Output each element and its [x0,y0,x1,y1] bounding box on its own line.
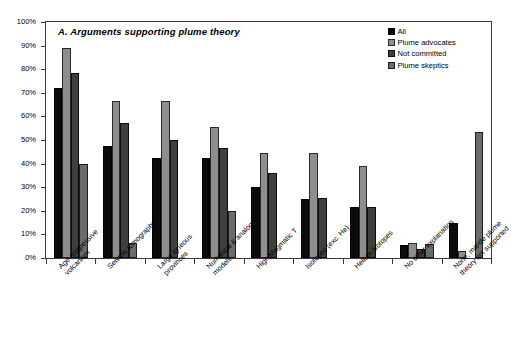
legend-item[interactable]: Plume advocates [388,38,456,47]
y-tick-label: 80% [21,65,36,73]
bar [161,101,170,258]
bar [359,166,368,258]
bar [210,127,219,258]
legend-label: All [398,27,406,36]
bar [400,245,409,258]
x-axis-labels: Age-progressivevolcanismSeismic tomograp… [0,263,497,350]
bar [112,101,121,258]
y-tick-label: 90% [21,42,36,50]
legend-item[interactable]: Not committed [388,49,456,58]
y-tick-mark [41,116,45,117]
bar [170,140,179,258]
legend-swatch-icon [388,62,395,69]
y-tick-mark [41,22,45,23]
y-axis: 0%10%20%30%40%50%60%70%80%90%100% [0,21,41,259]
legend-label: Plume advocates [398,38,456,47]
y-tick-label: 30% [21,183,36,191]
bar [120,123,129,258]
y-tick-mark [41,69,45,70]
bar [71,73,80,258]
legend-item[interactable]: All [388,27,456,36]
bar [309,153,318,258]
y-tick-mark [41,234,45,235]
chart-legend: AllPlume advocatesNot committedPlume ske… [388,27,456,70]
bar [202,158,211,258]
legend-label: Not committed [398,49,447,58]
bar [54,88,63,258]
y-tick-label: 100% [17,18,36,26]
legend-swatch-icon [388,28,395,35]
y-tick-label: 20% [21,207,36,215]
y-tick-label: 10% [21,230,36,238]
y-tick-mark [41,140,45,141]
y-tick-label: 40% [21,160,36,168]
y-tick-mark [41,46,45,47]
y-tick-mark [41,187,45,188]
y-tick-mark [41,93,45,94]
bar [251,187,260,258]
legend-label: Plume skeptics [398,61,449,70]
legend-item[interactable]: Plume skeptics [388,61,456,70]
bar-group [343,22,392,258]
y-tick-label: 0% [25,254,36,262]
bar-group [293,22,342,258]
bar-group [95,22,144,258]
y-tick-mark [41,258,45,259]
bar [152,158,161,258]
bar-group [194,22,243,258]
y-tick-mark [41,211,45,212]
legend-swatch-icon [388,39,395,46]
bar [301,199,310,258]
y-tick-label: 60% [21,112,36,120]
bar [350,207,359,258]
y-tick-mark [41,164,45,165]
y-tick-label: 50% [21,136,36,144]
y-tick-label: 70% [21,89,36,97]
legend-swatch-icon [388,50,395,57]
bar-group [46,22,95,258]
bar [260,153,269,258]
bar [62,48,71,258]
